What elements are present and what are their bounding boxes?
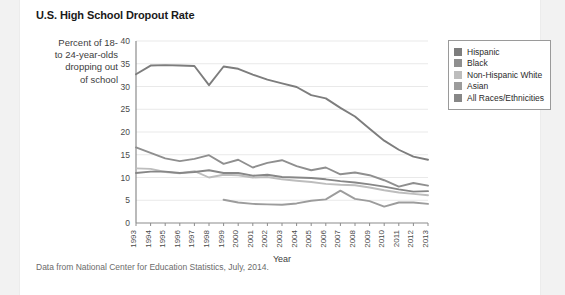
y-tick-label: 0 xyxy=(125,218,130,228)
legend-item[interactable]: Asian xyxy=(454,81,544,91)
x-tick-label: 2011 xyxy=(392,229,401,247)
legend-item[interactable]: Hispanic xyxy=(454,47,544,57)
source-caption: Data from National Center for Education … xyxy=(36,262,269,272)
x-tick-label: 1996 xyxy=(173,229,182,247)
x-tick-label: 2001 xyxy=(246,229,255,247)
chart-card: U.S. High School Dropout Rate Percent of… xyxy=(20,0,540,295)
legend-item-label: Asian xyxy=(467,81,488,91)
y-axis-tick-labels: 0510152025303540 xyxy=(121,36,131,228)
x-tick-label: 1993 xyxy=(129,229,138,247)
x-tick-label: 2005 xyxy=(304,229,313,247)
y-tick-label: 5 xyxy=(125,195,130,205)
y-tick-label: 20 xyxy=(121,127,131,137)
y-tick-label: 15 xyxy=(121,150,131,160)
x-tick-label: 1997 xyxy=(187,229,196,247)
x-tick-label: 2004 xyxy=(290,229,299,247)
legend-swatch-icon xyxy=(454,48,462,56)
y-tick-label: 40 xyxy=(121,36,131,46)
y-tick-label: 35 xyxy=(121,59,131,69)
legend-item-label: All Races/Ethnicities xyxy=(467,93,544,103)
page-root: U.S. High School Dropout Rate Percent of… xyxy=(0,0,565,295)
x-tick-label: 2008 xyxy=(348,229,357,247)
x-tick-label: 2010 xyxy=(377,229,386,247)
legend-swatch-icon xyxy=(454,82,462,90)
legend-swatch-icon xyxy=(454,59,462,67)
x-tick-label: 1995 xyxy=(158,229,167,247)
legend-swatch-icon xyxy=(454,71,462,79)
y-tick-label: 10 xyxy=(121,173,131,183)
x-tick-label: 1998 xyxy=(202,229,211,247)
series-line xyxy=(136,65,428,160)
x-tick-label: 2013 xyxy=(421,229,430,247)
x-tick-label: 1999 xyxy=(217,229,226,247)
x-tick-label: 2003 xyxy=(275,229,284,247)
legend-item[interactable]: Non-Hispanic White xyxy=(454,70,544,80)
x-axis-title: Year xyxy=(273,254,291,264)
legend-item-label: Black xyxy=(467,58,488,68)
x-tick-label: 2007 xyxy=(333,229,342,247)
x-tick-label: 2012 xyxy=(406,229,415,247)
x-axis-tick-labels: 1993199419951996199719981999200020012002… xyxy=(129,223,430,248)
y-tick-label: 30 xyxy=(121,82,131,92)
legend-swatch-icon xyxy=(454,94,462,102)
x-tick-label: 1994 xyxy=(144,229,153,247)
y-tick-label: 25 xyxy=(121,104,131,114)
x-tick-label: 2002 xyxy=(260,229,269,247)
x-tick-label: 2000 xyxy=(231,229,240,247)
legend-item[interactable]: All Races/Ethnicities xyxy=(454,93,544,103)
legend-item-label: Hispanic xyxy=(467,47,500,57)
x-tick-label: 2009 xyxy=(363,229,372,247)
series-line xyxy=(136,147,428,186)
legend-item-label: Non-Hispanic White xyxy=(467,70,542,80)
legend-item[interactable]: Black xyxy=(454,58,544,68)
chart-legend: HispanicBlackNon-Hispanic WhiteAsianAll … xyxy=(448,40,551,110)
x-tick-label: 2006 xyxy=(319,229,328,247)
